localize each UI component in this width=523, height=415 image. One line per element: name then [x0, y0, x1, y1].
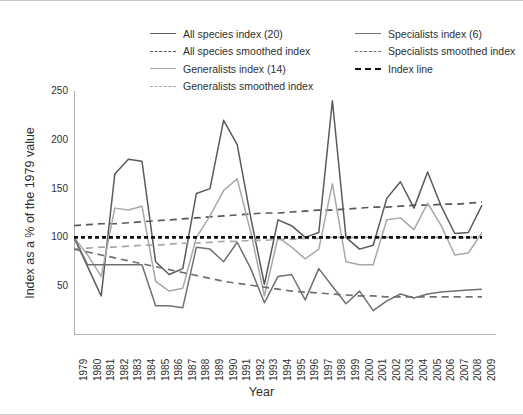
- x-tick-label: 1998: [336, 359, 347, 381]
- x-tick-label: 1997: [323, 359, 334, 381]
- legend-item[interactable]: All species index (20): [150, 25, 313, 43]
- legend-item-label: Generalists index (14): [183, 63, 286, 75]
- x-tick-label: 1986: [173, 359, 184, 381]
- legend-item[interactable]: Specialists smoothed index: [355, 43, 515, 61]
- y-tick-label: 250: [38, 85, 68, 96]
- legend-swatch-solid-icon: [355, 33, 381, 34]
- chart-svg: [74, 91, 496, 335]
- legend-item[interactable]: Generalists index (14): [150, 60, 313, 78]
- x-tick-label: 2008: [472, 359, 483, 381]
- series-line: [74, 249, 482, 297]
- chart-legend: All species index (20)All species smooth…: [150, 25, 510, 95]
- x-tick-label: 1982: [119, 359, 130, 381]
- x-tick-label: 1979: [78, 359, 89, 381]
- x-tick-label: 1996: [309, 359, 320, 381]
- plot-area: [74, 91, 496, 335]
- x-tick-label: 1994: [282, 359, 293, 381]
- x-tick-label: 2004: [418, 359, 429, 381]
- series-line: [74, 237, 482, 310]
- legend-item-label: Specialists index (6): [388, 28, 482, 40]
- x-tick-label: 1984: [146, 359, 157, 381]
- x-tick-label: 2005: [432, 359, 443, 381]
- y-tick-label: 200: [38, 134, 68, 145]
- x-tick-label: 2001: [377, 359, 388, 381]
- legend-item-label: All species smoothed index: [183, 45, 310, 57]
- series-line: [74, 101, 482, 296]
- x-tick-label: 2003: [404, 359, 415, 381]
- x-tick-label: 1980: [92, 359, 103, 381]
- legend-item[interactable]: All species smoothed index: [150, 43, 313, 61]
- x-tick-label: 1989: [214, 359, 225, 381]
- legend-swatch-solid-icon: [150, 33, 176, 34]
- x-tick-label: 2006: [445, 359, 456, 381]
- x-axis-tick-labels: 1979198019811982198319841985198619871988…: [74, 341, 504, 385]
- x-tick-label: 1987: [187, 359, 198, 381]
- chart-figure: All species index (20)All species smooth…: [0, 0, 523, 415]
- legend-column-right: Specialists index (6)Specialists smoothe…: [355, 25, 515, 78]
- legend-swatch-dashed-icon: [355, 51, 381, 52]
- series-line: [74, 237, 482, 249]
- legend-item[interactable]: Specialists index (6): [355, 25, 515, 43]
- x-tick-label: 2009: [486, 359, 497, 381]
- legend-item[interactable]: Index line: [355, 60, 515, 78]
- x-tick-label: 1993: [268, 359, 279, 381]
- y-tick-label: 50: [38, 280, 68, 291]
- legend-item-label: Specialists smoothed index: [388, 45, 515, 57]
- legend-item-label: All species index (20): [183, 28, 283, 40]
- x-tick-label: 1999: [350, 359, 361, 381]
- x-tick-label: 1995: [296, 359, 307, 381]
- legend-swatch-dashed-icon: [150, 51, 176, 52]
- x-tick-label: 1990: [228, 359, 239, 381]
- x-tick-label: 1981: [105, 359, 116, 381]
- x-axis-title: Year: [0, 385, 523, 399]
- x-tick-label: 2002: [391, 359, 402, 381]
- x-tick-label: 2000: [364, 359, 375, 381]
- x-tick-label: 1991: [241, 359, 252, 381]
- y-tick-label: 150: [38, 183, 68, 194]
- legend-item-label: Index line: [388, 63, 433, 75]
- legend-swatch-dashed-icon: [150, 86, 176, 87]
- y-axis-title: Index as a % of the 1979 value: [22, 91, 38, 335]
- legend-swatch-dotted-thick-icon: [355, 68, 381, 70]
- legend-swatch-solid-icon: [150, 68, 176, 69]
- x-tick-label: 2007: [459, 359, 470, 381]
- x-tick-label: 1983: [132, 359, 143, 381]
- x-tick-label: 1988: [200, 359, 211, 381]
- y-axis-title-text: Index as a % of the 1979 value: [23, 127, 37, 299]
- legend-column-left: All species index (20)All species smooth…: [150, 25, 313, 95]
- y-tick-label: 100: [38, 231, 68, 242]
- x-tick-label: 1992: [255, 359, 266, 381]
- x-tick-label: 1985: [160, 359, 171, 381]
